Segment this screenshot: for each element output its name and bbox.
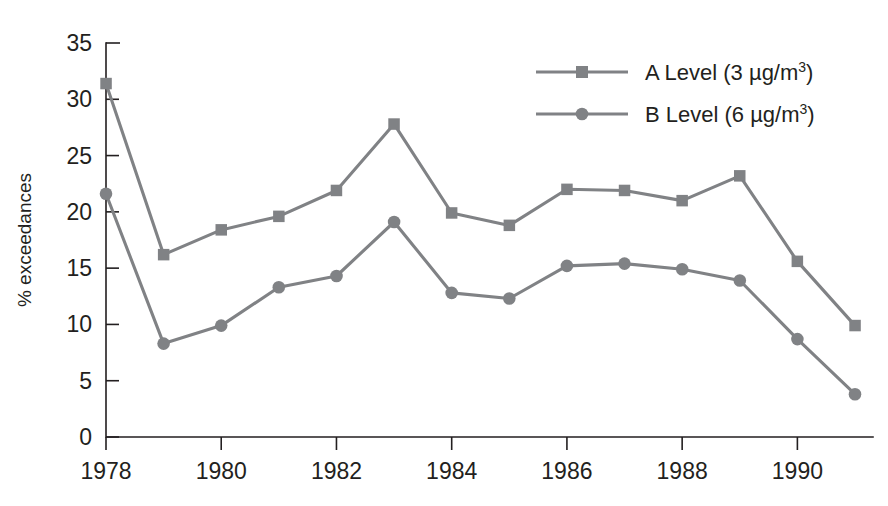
data-point-marker bbox=[100, 188, 113, 201]
line-chart: 05101520253035 1978198019821984198619881… bbox=[0, 0, 888, 506]
data-point-marker bbox=[676, 263, 689, 276]
x-tick-label: 1990 bbox=[772, 458, 823, 484]
y-tick-label: 5 bbox=[79, 368, 92, 394]
chart-legend: A Level (3 µg/m3)B Level (6 µg/m3) bbox=[536, 59, 815, 127]
y-tick-label: 25 bbox=[66, 143, 92, 169]
data-point-marker bbox=[216, 224, 228, 236]
data-point-marker bbox=[157, 337, 170, 350]
data-point-marker bbox=[792, 256, 804, 268]
x-tick-label: 1988 bbox=[657, 458, 708, 484]
y-axis-label: % exceedances bbox=[14, 173, 35, 307]
y-tick-label: 30 bbox=[66, 86, 92, 112]
data-point-marker bbox=[561, 260, 574, 273]
data-point-marker bbox=[849, 320, 861, 332]
data-point-marker bbox=[561, 184, 573, 196]
data-point-marker bbox=[330, 270, 343, 283]
data-point-marker bbox=[734, 274, 747, 287]
x-tick-label: 1984 bbox=[426, 458, 477, 484]
data-point-marker bbox=[676, 195, 688, 207]
legend-label-a-level: A Level (3 µg/m3) bbox=[645, 59, 813, 85]
y-tick-label: 35 bbox=[66, 30, 92, 56]
data-point-marker bbox=[158, 249, 170, 261]
data-point-marker bbox=[445, 287, 458, 300]
data-point-marker bbox=[215, 319, 228, 332]
x-tick-label: 1978 bbox=[80, 458, 131, 484]
x-tick-label: 1980 bbox=[196, 458, 247, 484]
data-point-marker bbox=[273, 211, 285, 223]
data-point-marker bbox=[388, 216, 401, 229]
data-point-marker bbox=[273, 281, 286, 294]
data-point-marker bbox=[618, 257, 631, 270]
chart-page: 05101520253035 1978198019821984198619881… bbox=[0, 0, 888, 506]
x-axis-ticks: 1978198019821984198619881990 bbox=[80, 437, 823, 484]
y-tick-label: 20 bbox=[66, 199, 92, 225]
data-point-marker bbox=[619, 185, 631, 197]
data-point-marker bbox=[849, 388, 862, 401]
series-line-b-level bbox=[106, 194, 855, 394]
data-point-marker bbox=[331, 185, 343, 197]
data-point-marker bbox=[446, 207, 458, 219]
legend-circle-marker bbox=[576, 108, 589, 121]
data-point-marker bbox=[388, 118, 400, 130]
data-point-marker bbox=[503, 292, 516, 305]
y-axis-ticks: 05101520253035 bbox=[66, 30, 119, 450]
x-tick-label: 1986 bbox=[541, 458, 592, 484]
y-tick-label: 10 bbox=[66, 311, 92, 337]
y-tick-label: 0 bbox=[79, 424, 92, 450]
legend-square-marker bbox=[576, 66, 588, 78]
data-point-marker bbox=[100, 78, 112, 90]
data-point-marker bbox=[734, 170, 746, 182]
data-point-marker bbox=[504, 220, 515, 232]
y-tick-label: 15 bbox=[66, 255, 92, 281]
legend-label-b-level: B Level (6 µg/m3) bbox=[645, 101, 815, 127]
x-tick-label: 1982 bbox=[311, 458, 362, 484]
data-point-marker bbox=[791, 333, 804, 346]
